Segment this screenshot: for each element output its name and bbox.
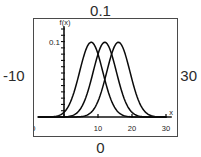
x-tick-label: 10 <box>94 124 102 133</box>
gaussian-curve <box>38 42 165 117</box>
y-axis-label: f(x) <box>60 19 71 27</box>
outer-label-bottom: 0 <box>0 140 201 155</box>
x-tick-label: -10 <box>34 124 35 133</box>
x-tick-label: 30 <box>162 124 170 133</box>
outer-label-left: -10 <box>3 68 25 83</box>
gaussian-curve <box>38 42 165 117</box>
x-tick-label: 20 <box>128 124 136 133</box>
x-tick-labels: -10102030 <box>34 124 170 133</box>
gaussian-curves-plot: -10102030 0.1 f(x) x <box>34 19 176 135</box>
gaussian-curve <box>38 42 165 117</box>
curves-group <box>38 42 165 117</box>
x-axis-label: x <box>169 108 173 117</box>
outer-label-right: 30 <box>180 68 197 83</box>
plot-frame: -10102030 0.1 f(x) x <box>33 18 178 137</box>
y-tick-label-0point1: 0.1 <box>49 38 61 47</box>
figure-root: 0.1 -10 30 0 -10102030 0.1 f(x) x <box>0 0 201 157</box>
outer-label-top: 0.1 <box>0 3 201 18</box>
